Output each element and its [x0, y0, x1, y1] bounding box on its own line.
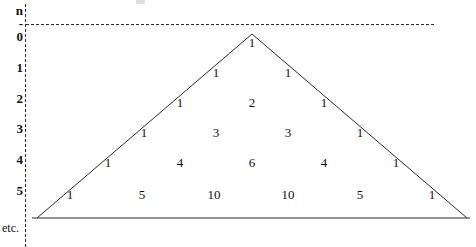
pascal-cell: 3	[275, 126, 301, 140]
pascal-cell: 1	[131, 126, 157, 140]
pascal-cell: 1	[383, 156, 409, 170]
pascal-cell: 10	[275, 188, 301, 202]
triangle-outline	[0, 0, 476, 247]
pascal-cell: 1	[167, 96, 193, 110]
pascal-cell: 1	[347, 126, 373, 140]
pascal-cell: 5	[129, 188, 155, 202]
pascals-triangle-figure: n - 0 1 2 3 4 5 etc. 1 1 1 1 2 1 1 3 3 1…	[0, 0, 476, 247]
pascal-cell: 4	[167, 156, 193, 170]
pascal-cell: 1	[311, 96, 337, 110]
pascal-cell: 1	[239, 36, 265, 50]
pascal-cell: 5	[347, 188, 373, 202]
pascal-cell: 3	[203, 126, 229, 140]
pascal-cell: 4	[311, 156, 337, 170]
pascal-cell: 2	[239, 96, 265, 110]
pascal-cell: 10	[201, 188, 227, 202]
pascal-cell: 1	[275, 66, 301, 80]
pascal-cell: 6	[239, 156, 265, 170]
pascal-cell: 1	[203, 66, 229, 80]
pascal-cell: 1	[57, 188, 83, 202]
pascal-cell: 1	[95, 156, 121, 170]
pascal-cell: 1	[419, 188, 445, 202]
